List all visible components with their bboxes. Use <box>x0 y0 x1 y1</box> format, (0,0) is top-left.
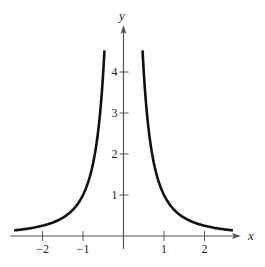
axes: −2−1121234 <box>10 25 241 256</box>
y-tick-label: 4 <box>112 65 118 79</box>
x-axis-label: x <box>247 228 254 243</box>
x-tick-label: 2 <box>202 242 208 256</box>
chart: −2−1121234 x y <box>0 0 265 267</box>
curve-right-branch <box>143 50 233 230</box>
y-axis-label: y <box>117 8 125 23</box>
y-tick-label: 1 <box>112 188 118 202</box>
x-tick-label: −2 <box>36 242 49 256</box>
curve-left-branch <box>14 50 104 230</box>
y-tick-label: 3 <box>112 106 118 120</box>
x-tick-label: −1 <box>77 242 90 256</box>
y-tick-label: 2 <box>112 147 118 161</box>
x-tick-label: 1 <box>161 242 167 256</box>
